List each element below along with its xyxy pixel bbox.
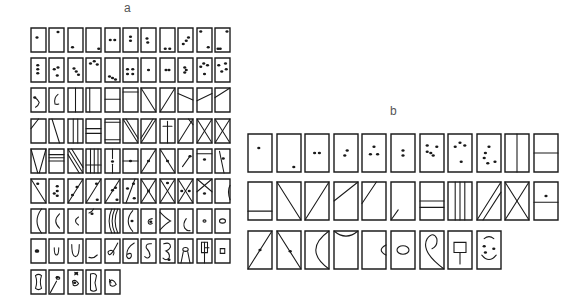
card: [105, 179, 120, 203]
card: [31, 149, 46, 173]
card: [448, 231, 472, 269]
card: [123, 58, 138, 82]
card: [141, 28, 156, 52]
card: [31, 179, 46, 203]
card: [448, 134, 472, 172]
card: [141, 88, 156, 112]
card: [197, 28, 212, 52]
card: [197, 119, 212, 143]
card: [197, 88, 212, 112]
card: [178, 149, 193, 173]
card: [49, 88, 64, 112]
card: [68, 239, 83, 263]
card: [31, 28, 46, 52]
card: [123, 88, 138, 112]
card: [420, 134, 444, 172]
card: [248, 134, 272, 172]
card: [68, 179, 83, 203]
card: [197, 58, 212, 82]
card: [68, 270, 83, 294]
card: [105, 239, 120, 263]
card: [49, 28, 64, 52]
card: [31, 88, 46, 112]
card: [534, 134, 558, 172]
card: [49, 119, 64, 143]
card: [31, 58, 46, 82]
card: [215, 119, 230, 143]
card: [178, 179, 193, 203]
card: [305, 134, 329, 172]
card: [305, 182, 329, 220]
card: [105, 209, 120, 233]
card: [160, 209, 175, 233]
card: [534, 182, 558, 220]
card: [141, 239, 156, 263]
card: [215, 209, 230, 233]
card: [31, 270, 46, 294]
card: [68, 88, 83, 112]
card: [86, 209, 101, 233]
card: [178, 209, 193, 233]
card: [197, 179, 212, 203]
card: [105, 149, 120, 173]
card: [215, 58, 230, 82]
card: [31, 209, 46, 233]
card: [277, 182, 301, 220]
card: [160, 119, 175, 143]
card: [362, 134, 386, 172]
card: [49, 209, 64, 233]
card: [86, 179, 101, 203]
card: [178, 28, 193, 52]
card: [49, 149, 64, 173]
card: [123, 209, 138, 233]
card: [123, 239, 138, 263]
card: [160, 149, 175, 173]
card: [391, 231, 415, 269]
card: [197, 209, 212, 233]
card: [277, 231, 301, 269]
card: [215, 239, 230, 263]
card: [105, 119, 120, 143]
card: [105, 58, 120, 82]
card: [477, 134, 501, 172]
card: [277, 134, 301, 172]
card: [505, 182, 529, 220]
card: [86, 119, 101, 143]
card: [391, 182, 415, 220]
card: [420, 182, 444, 220]
card: [178, 88, 193, 112]
card: [141, 119, 156, 143]
card: [362, 231, 386, 269]
card: [362, 182, 386, 220]
card: [160, 179, 175, 203]
card: [105, 88, 120, 112]
card: [178, 58, 193, 82]
card: [215, 28, 230, 52]
card: [86, 239, 101, 263]
card: [305, 231, 329, 269]
card: [68, 119, 83, 143]
card: [49, 58, 64, 82]
card: [141, 179, 156, 203]
card: [86, 88, 101, 112]
card: [420, 231, 444, 269]
card: [49, 239, 64, 263]
card: [123, 119, 138, 143]
card: [215, 149, 230, 173]
card: [477, 231, 501, 269]
card: [86, 149, 101, 173]
card: [31, 119, 46, 143]
card: [105, 270, 120, 294]
card: [160, 88, 175, 112]
card: [68, 149, 83, 173]
card: [160, 58, 175, 82]
card: [505, 134, 529, 172]
card: [123, 179, 138, 203]
card: [123, 149, 138, 173]
card: [178, 119, 193, 143]
card: [141, 58, 156, 82]
card: [477, 182, 501, 220]
card: [215, 179, 230, 203]
card: [31, 239, 46, 263]
card: [141, 209, 156, 233]
